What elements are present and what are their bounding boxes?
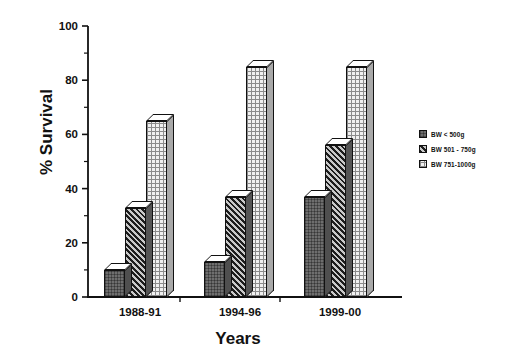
y-axis-tick-labels: 020406080100 [44, 0, 78, 364]
bar-front-face [204, 262, 225, 297]
y-tick-label: 0 [44, 291, 78, 303]
chart-legend: BW < 500gBW 501 - 750gBW 751-1000g [419, 127, 505, 172]
legend-item: BW 501 - 750g [419, 142, 505, 156]
plot-area [88, 26, 388, 297]
chart-figure: % Survival 020406080100 1988-911994-9619… [0, 0, 506, 364]
x-tick-label: 1999-00 [280, 306, 400, 318]
legend-swatch [419, 130, 427, 138]
bar-side-face [325, 190, 332, 297]
legend-label: BW 501 - 750g [431, 146, 476, 153]
legend-item: BW 751-1000g [419, 157, 505, 171]
y-tick-label: 100 [44, 20, 78, 32]
legend-swatch [419, 160, 427, 168]
legend-label: BW 751-1000g [431, 161, 476, 168]
bar-side-face [246, 190, 253, 297]
y-tick-label: 40 [44, 183, 78, 195]
bar-front-face [304, 197, 325, 297]
x-axis-title: Years [88, 329, 388, 349]
bar-side-face [167, 114, 174, 297]
bar-side-face [346, 138, 353, 297]
legend-item: BW < 500g [419, 127, 505, 141]
y-tick-label: 80 [44, 74, 78, 86]
bar [304, 197, 325, 297]
bar-side-face [367, 60, 374, 297]
bar-front-face [104, 270, 125, 297]
bar-side-face [267, 60, 274, 297]
legend-swatch [419, 145, 427, 153]
bar-side-face [146, 201, 153, 297]
y-tick-label: 20 [44, 237, 78, 249]
y-tick-label: 60 [44, 128, 78, 140]
bar [204, 262, 225, 297]
legend-label: BW < 500g [431, 131, 464, 138]
bar [104, 270, 125, 297]
